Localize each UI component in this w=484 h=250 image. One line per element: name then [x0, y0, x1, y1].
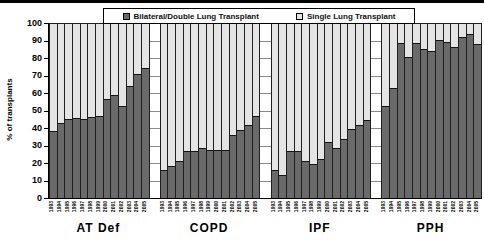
x-tick-label: 1995 [174, 201, 182, 212]
y-tick-label: 20 [0, 159, 42, 168]
y-tick-label: 50 [0, 106, 42, 115]
y-tick-label: 40 [0, 124, 42, 133]
y-tick-label: 10 [0, 176, 42, 185]
stacked-bar [389, 23, 397, 198]
x-tick-label: 2002 [450, 201, 458, 212]
bar-segment-bilateral [245, 125, 252, 198]
stacked-bar [190, 23, 198, 198]
legend-label-bilateral: Bilateral/Double Lung Transplant [134, 12, 259, 21]
bar-segment-bilateral [222, 150, 229, 198]
x-axis-group-labels: AT Def COPD IPF PPH [48, 221, 481, 235]
bar-segment-bilateral [134, 74, 141, 198]
bar-segment-bilateral [421, 49, 428, 198]
stacked-bar [294, 23, 302, 198]
stacked-bar [141, 23, 150, 198]
stacked-bar [427, 23, 435, 198]
stacked-bar [183, 23, 191, 198]
bar-segment-bilateral [398, 43, 405, 198]
x-tick-label: 1994 [167, 201, 175, 212]
stacked-bar [175, 23, 183, 198]
bar-segment-bilateral [436, 40, 443, 198]
x-tick-label: 2000 [435, 201, 443, 212]
bar-segment-bilateral [295, 151, 302, 198]
bar-group-copd [160, 23, 261, 198]
x-tick-label: 1996 [293, 201, 301, 212]
bar-segment-bilateral [364, 120, 371, 198]
stacked-bar [271, 23, 279, 198]
stacked-bar [57, 23, 65, 198]
x-tick-label: 1998 [87, 201, 95, 212]
bar-segment-bilateral [199, 148, 206, 198]
stacked-bar [229, 23, 237, 198]
stacked-bar [355, 23, 363, 198]
x-axis-year-labels: 1993199419951996199719981999200020012002… [48, 201, 481, 212]
stacked-bar [381, 23, 389, 198]
bar-segment-bilateral [279, 175, 286, 198]
x-tick-label: 2002 [118, 201, 126, 212]
group-label-at-def: AT Def [48, 221, 149, 235]
x-tick-label: 2004 [244, 201, 252, 212]
y-tick-label: 30 [0, 141, 42, 150]
x-tick-label: 1999 [316, 201, 324, 212]
bar-segment-bilateral [310, 164, 317, 198]
legend-item-single: Single Lung Transplant [296, 12, 395, 21]
stacked-bar [317, 23, 325, 198]
y-tick-label: 80 [0, 54, 42, 63]
stacked-bar [64, 23, 72, 198]
bar-segment-bilateral [65, 119, 72, 198]
stacked-bar [286, 23, 294, 198]
x-tick-label: 1999 [427, 201, 435, 212]
stacked-bar [160, 23, 168, 198]
stacked-bar [473, 23, 482, 198]
bar-segment-bilateral [168, 166, 175, 198]
bar-segment-bilateral [253, 116, 260, 198]
y-tick-label: 90 [0, 36, 42, 45]
x-tick-label: 1998 [308, 201, 316, 212]
bar-segment-bilateral [207, 150, 214, 198]
x-tick-label: 2005 [141, 201, 149, 212]
bar-segment-bilateral [142, 68, 149, 199]
bar-segment-bilateral [127, 86, 134, 198]
bar-segment-bilateral [287, 151, 294, 198]
stacked-bar [49, 23, 57, 198]
stacked-bar [110, 23, 118, 198]
x-tick-label: 2005 [363, 201, 371, 212]
single-swatch-icon [296, 13, 303, 20]
bilateral-swatch-icon [123, 13, 130, 20]
stacked-bar [443, 23, 451, 198]
bar-segment-bilateral [474, 44, 481, 198]
x-tick-label: 2004 [355, 201, 363, 212]
y-tick-label: 100 [0, 19, 42, 28]
bar-segment-bilateral [356, 125, 363, 198]
x-tick-label: 1997 [79, 201, 87, 212]
x-tick-label: 1994 [56, 201, 64, 212]
bar-segment-bilateral [119, 106, 126, 198]
stacked-bar [95, 23, 103, 198]
bar-segment-bilateral [413, 43, 420, 198]
x-tick-label: 2005 [473, 201, 481, 212]
x-tick-label: 2000 [324, 201, 332, 212]
stacked-bar [412, 23, 420, 198]
bar-segment-bilateral [88, 117, 95, 198]
x-tick-label: 1993 [159, 201, 167, 212]
x-tick-label: 2004 [133, 201, 141, 212]
x-tick-label: 2000 [213, 201, 221, 212]
bar-segment-bilateral [405, 57, 412, 198]
stacked-bar [206, 23, 214, 198]
bar-segment-bilateral [459, 37, 466, 198]
stacked-bar [301, 23, 309, 198]
stacked-bar [404, 23, 412, 198]
x-tick-label: 2003 [236, 201, 244, 212]
bar-segment-bilateral [96, 116, 103, 198]
bar-group-pph [381, 23, 482, 198]
x-tick-label: 2003 [458, 201, 466, 212]
transplant-stacked-bar-chart: Bilateral/Double Lung Transplant Single … [0, 0, 484, 250]
bar-segment-bilateral [428, 51, 435, 198]
plot-area [48, 23, 482, 199]
x-tick-label: 1998 [198, 201, 206, 212]
bar-segment-bilateral [348, 129, 355, 198]
stacked-bar [252, 23, 261, 198]
bar-segment-bilateral [58, 123, 65, 198]
x-tick-label: 1997 [411, 201, 419, 212]
bar-segment-bilateral [318, 159, 325, 198]
